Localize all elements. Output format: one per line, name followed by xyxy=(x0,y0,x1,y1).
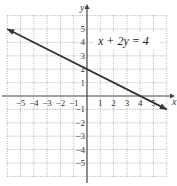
equation-label: x + 2y = 4 xyxy=(97,34,149,48)
y-tick-label: −2 xyxy=(75,118,85,128)
y-axis-arrow-icon xyxy=(85,4,90,9)
y-tick-label: 4 xyxy=(81,37,86,47)
coordinate-graph: x y −5−4−3−2−11234554321−1−2−3−4−5 x + 2… xyxy=(0,0,177,186)
y-tick-label: −4 xyxy=(75,145,85,155)
x-axis-label: x xyxy=(171,96,177,107)
y-tick-label: 5 xyxy=(81,24,86,34)
y-tick-label: 1 xyxy=(81,78,86,88)
x-tick-label: −3 xyxy=(42,98,52,108)
y-axis-label: y xyxy=(79,2,85,13)
y-tick-label: 3 xyxy=(81,51,86,61)
y-tick-label: −1 xyxy=(75,104,85,114)
x-tick-label: −5 xyxy=(16,98,26,108)
x-tick-label: −4 xyxy=(29,98,39,108)
x-tick-label: 4 xyxy=(138,98,143,108)
x-tick-label: −2 xyxy=(56,98,66,108)
x-tick-label: 2 xyxy=(111,98,116,108)
x-tick-label: 1 xyxy=(98,98,103,108)
y-tick-label: −3 xyxy=(75,131,85,141)
x-tick-label: 3 xyxy=(125,98,130,108)
y-tick-label: −5 xyxy=(75,158,85,168)
axes: x y xyxy=(2,2,177,183)
